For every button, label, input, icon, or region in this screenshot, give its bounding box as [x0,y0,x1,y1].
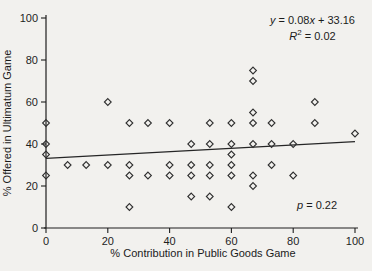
x-tick-label: 100 [346,235,364,247]
data-point [166,172,173,179]
data-point [250,172,257,179]
regression-annotation: y = 0.08x + 33.16 R2 = 0.02 [270,12,355,44]
r-squared-number: = 0.02 [302,30,336,42]
equation-coef: = 0.08 [275,14,309,26]
data-point [166,162,173,169]
data-point [352,130,359,137]
data-point [228,172,235,179]
x-tick-label: 40 [163,235,175,247]
data-point [206,193,213,200]
data-point [250,183,257,190]
data-point [83,162,90,169]
data-point [250,120,257,127]
data-point [250,109,257,116]
trend-line [46,142,355,159]
y-tick-label: 20 [26,180,38,192]
y-axis-title: % Offered in Ultimatum Game [1,27,13,219]
y-tick-label: 100 [20,12,38,24]
data-point [126,120,133,127]
data-point [206,120,213,127]
regression-equation: y = 0.08x + 33.16 [270,12,355,28]
data-point [188,141,195,148]
data-point [228,151,235,158]
data-point [250,78,257,85]
equation-intercept: + 33.16 [315,14,355,26]
data-point [206,172,213,179]
y-tick-label: 60 [26,96,38,108]
data-point [166,120,173,127]
data-point [126,204,133,211]
data-point [126,162,133,169]
data-point [268,162,275,169]
data-point [268,120,275,127]
scatter-chart: 020406080100020406080100 % Contribution … [0,0,372,271]
data-point [228,141,235,148]
data-point [228,162,235,169]
x-tick-label: 60 [225,235,237,247]
y-tick-label: 0 [32,222,38,234]
x-tick-label: 20 [102,235,114,247]
data-point [290,141,297,148]
data-point [228,120,235,127]
data-point [188,162,195,169]
x-axis-title: % Contribution in Public Goods Game [0,247,372,259]
data-point [188,193,195,200]
data-point [64,162,71,169]
data-point [145,172,152,179]
data-point [206,141,213,148]
data-point [104,162,111,169]
data-point [250,67,257,74]
data-point [126,172,133,179]
p-value-annotation: p = 0.22 [297,199,337,211]
x-tick-label: 80 [287,235,299,247]
data-point [145,120,152,127]
data-point [104,99,111,106]
data-point [188,172,195,179]
data-point [290,172,297,179]
data-point [206,162,213,169]
data-point [311,120,318,127]
x-tick-label: 0 [43,235,49,247]
r-squared-value: R2 = 0.02 [289,28,335,44]
y-tick-label: 40 [26,138,38,150]
y-tick-label: 80 [26,54,38,66]
data-point [311,99,318,106]
p-number: = 0.22 [303,199,337,211]
data-point [228,204,235,211]
